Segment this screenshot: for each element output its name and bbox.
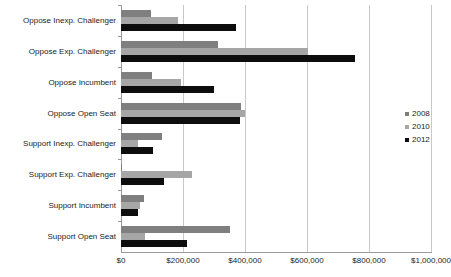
bar-2012: [121, 24, 236, 31]
bar-2010: [121, 202, 140, 209]
bar-2012: [121, 117, 240, 124]
bar-2010: [121, 79, 181, 86]
legend-label: 2012: [412, 133, 430, 146]
bar-2008: [121, 41, 218, 48]
category-label: Oppose Open Seat: [0, 109, 121, 118]
bar-2012: [121, 55, 355, 62]
bar-group: Support Inexp. Challenger: [121, 129, 431, 160]
x-axis-tick-label: $600,000: [290, 256, 323, 266]
legend-item-2012[interactable]: 2012: [405, 133, 430, 146]
legend-item-2010[interactable]: 2010: [405, 120, 430, 133]
bar-2008: [121, 103, 241, 110]
gridline: [431, 5, 432, 252]
category-label: Oppose Exp. Challenger: [0, 47, 121, 56]
bar-2008: [121, 195, 144, 202]
bar-group: Oppose Incumbent: [121, 67, 431, 98]
x-axis-tick-label: $200,000: [166, 256, 199, 266]
bar-group: Support Incumbent: [121, 190, 431, 221]
y-axis-tick: [118, 67, 121, 68]
bar-2010: [121, 140, 138, 147]
category-label: Support Incumbent: [0, 201, 121, 210]
y-axis-tick: [118, 5, 121, 6]
x-axis-tick-label: $1,000,000: [411, 256, 451, 266]
y-axis-tick: [118, 129, 121, 130]
legend-swatch-icon: [405, 138, 409, 142]
legend-label: 2008: [412, 107, 430, 120]
legend-label: 2010: [412, 120, 430, 133]
bar-2010: [121, 48, 308, 55]
bar-2010: [121, 233, 145, 240]
bar-2008: [121, 226, 230, 233]
bar-2012: [121, 209, 138, 216]
y-axis-tick: [118, 190, 121, 191]
bar-2008: [121, 72, 152, 79]
bar-2010: [121, 17, 178, 24]
bar-2010: [121, 110, 245, 117]
x-axis-tick-label: $800,000: [352, 256, 385, 266]
category-label: Support Open Seat: [0, 232, 121, 241]
bar-2012: [121, 86, 214, 93]
y-axis-tick: [118, 221, 121, 222]
bar-2012: [121, 178, 164, 185]
bar-2008: [121, 10, 151, 17]
bar-group: Oppose Inexp. Challenger: [121, 5, 431, 36]
category-label: Support Exp. Challenger: [0, 170, 121, 179]
bar-group: Oppose Open Seat: [121, 98, 431, 129]
y-axis-tick: [118, 98, 121, 99]
bar-group: Support Open Seat: [121, 221, 431, 252]
category-label: Oppose Incumbent: [0, 78, 121, 87]
legend-item-2008[interactable]: 2008: [405, 107, 430, 120]
x-axis-line: [121, 252, 432, 253]
x-axis-tick-label: $400,000: [228, 256, 261, 266]
bar-2012: [121, 240, 187, 247]
chart-legend: 200820102012: [405, 107, 430, 146]
category-label: Support Inexp. Challenger: [0, 139, 121, 148]
bar-group: Oppose Exp. Challenger: [121, 36, 431, 67]
legend-swatch-icon: [405, 125, 409, 129]
legend-swatch-icon: [405, 112, 409, 116]
bar-2008: [121, 133, 162, 140]
category-label: Oppose Inexp. Challenger: [0, 16, 121, 25]
plot-area: Oppose Inexp. ChallengerOppose Exp. Chal…: [121, 5, 431, 252]
bar-2012: [121, 147, 153, 154]
x-axis-tick-label: $0: [117, 256, 126, 266]
bar-group: Support Exp. Challenger: [121, 159, 431, 190]
y-axis-tick: [118, 159, 121, 160]
bar-2010: [121, 171, 192, 178]
bar-2008: [121, 164, 122, 171]
y-axis-tick: [118, 36, 121, 37]
